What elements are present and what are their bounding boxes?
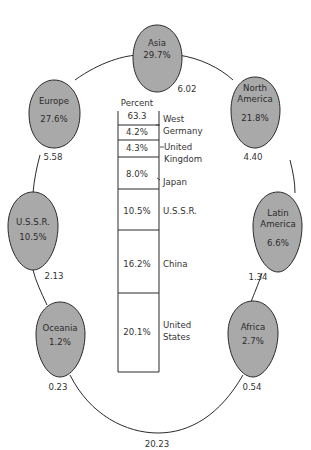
bar-segment-label: Japan (162, 177, 187, 187)
loop-total-value: 20.23 (145, 439, 170, 449)
region-percent: 27.6% (40, 114, 67, 124)
region-name: Africa (241, 322, 266, 332)
egg-shape (253, 192, 302, 272)
region-name: Europe (39, 96, 69, 106)
bar-segment-label: United (163, 320, 191, 330)
region-name: Oceania (42, 323, 77, 333)
bar-header: Percent (121, 98, 154, 108)
percent-stacked-bar: Percent 63.3 4.2% 4.3% 8.0% 10.5% 16.2% … (118, 98, 203, 372)
region-percent: 10.5% (19, 232, 46, 242)
bar-segment-value: 10.5% (123, 206, 150, 216)
bar-segment-label: West (163, 114, 185, 124)
region-north-america: North America 21.8% (231, 77, 280, 148)
link-value-north-america: 4.40 (243, 152, 262, 162)
region-percent: 1.2% (49, 337, 71, 347)
bar-segment-value: 4.3% (126, 143, 148, 153)
region-name: North (243, 83, 267, 93)
bar-segment-value: 63.3 (127, 111, 146, 121)
region-latin-america: Latin America 6.6% (253, 192, 302, 272)
region-africa: Africa 2.7% (228, 301, 278, 377)
region-percent: 6.6% (267, 238, 289, 248)
region-name-line2: America (260, 219, 295, 229)
link-value-europe: 5.58 (43, 152, 62, 162)
link-value-asia: 6.02 (177, 84, 196, 94)
bar-segment-value: 8.0% (126, 169, 148, 179)
bar-segment-label: United (164, 142, 192, 152)
region-percent: 29.7% (143, 50, 170, 60)
bar-segment-label: States (163, 332, 191, 342)
region-europe: Europe 27.6% (29, 80, 80, 148)
region-name: Asia (148, 38, 166, 48)
bar-segment-value: 16.2% (123, 259, 150, 269)
bar-segment-value: 4.2% (126, 127, 148, 137)
region-loop-diagram: Asia 29.7% 6.02 North America 21.8% 4.40… (0, 0, 311, 450)
region-percent: 21.8% (241, 113, 268, 123)
link-value-ussr: 2.13 (44, 271, 63, 281)
bar-segment-value: 20.1% (123, 327, 150, 337)
region-name: U.S.S.R. (16, 217, 50, 227)
region-ussr: U.S.S.R. 10.5% (8, 192, 58, 270)
bar-segment-label: Kingdom (164, 154, 202, 164)
link-value-oceania: 0.23 (48, 382, 67, 392)
region-percent: 2.7% (242, 336, 264, 346)
region-name-line2: America (237, 94, 272, 104)
bar-segment-label: China (163, 259, 188, 269)
link-value-latin-america: 1.34 (248, 272, 267, 282)
region-asia: Asia 29.7% (133, 25, 182, 92)
bar-segment-label: Germany (163, 126, 203, 136)
region-oceania: Oceania 1.2% (36, 302, 85, 377)
egg-shape (8, 192, 58, 270)
region-name: Latin (267, 208, 288, 218)
link-value-africa: 0.54 (242, 382, 261, 392)
bar-segment-label: U.S.S.R. (163, 206, 197, 216)
